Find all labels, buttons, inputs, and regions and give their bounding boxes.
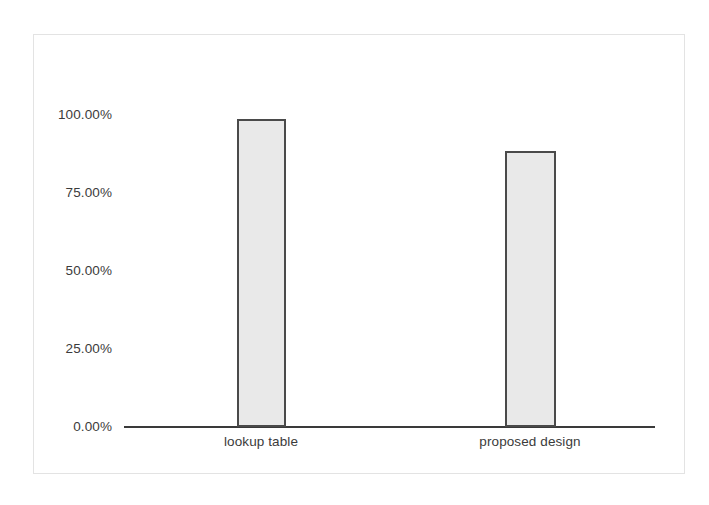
- y-axis-tick-label-25: 25.00%: [0, 342, 112, 356]
- y-axis-tick-label-100: 100.00%: [0, 108, 112, 122]
- bar-lookup-table: [237, 119, 286, 427]
- y-axis-tick-label-50: 50.00%: [0, 264, 112, 278]
- plot-area: 100.00% 75.00% 50.00% 25.00% 0.00% looku…: [0, 0, 709, 505]
- bar-chart-figure: 100.00% 75.00% 50.00% 25.00% 0.00% looku…: [0, 0, 709, 505]
- x-axis-category-label-proposed-design: proposed design: [420, 434, 640, 450]
- x-axis-category-label-lookup-table: lookup table: [151, 434, 371, 450]
- y-axis-tick-label-75: 75.00%: [0, 186, 112, 200]
- x-axis-baseline: [124, 426, 655, 428]
- y-axis-tick-label-0: 0.00%: [0, 420, 112, 434]
- bar-proposed-design: [505, 151, 556, 427]
